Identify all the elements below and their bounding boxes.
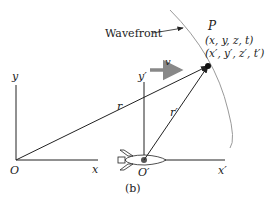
x-prime-axis-label: x′ — [218, 164, 227, 177]
y-prime-axis-label: y′ — [137, 70, 147, 83]
velocity-label: v — [165, 56, 171, 67]
y-axis-label: y — [11, 70, 19, 83]
wavefront-label: Wavefront — [105, 27, 163, 40]
point-P-prime-coords: (x′, y′, z′, t′) — [205, 47, 264, 59]
r-vector — [16, 66, 208, 160]
origin-O-prime-label: O′ — [138, 166, 150, 179]
x-axis-label: x — [92, 163, 99, 176]
relativity-diagram: Wavefront y x O y′ x′ O′ v r r′ P (x, y,… — [0, 0, 266, 206]
wavefront-arc — [170, 10, 233, 148]
r-prime-vector-label: r′ — [170, 106, 178, 119]
r-vector-label: r — [117, 100, 123, 113]
origin-O-label: O — [10, 164, 19, 177]
point-P-label: P — [207, 19, 217, 33]
point-P-coords: (x, y, z, t) — [205, 34, 253, 46]
point-P — [205, 63, 211, 69]
figure-caption: (b) — [125, 182, 141, 195]
